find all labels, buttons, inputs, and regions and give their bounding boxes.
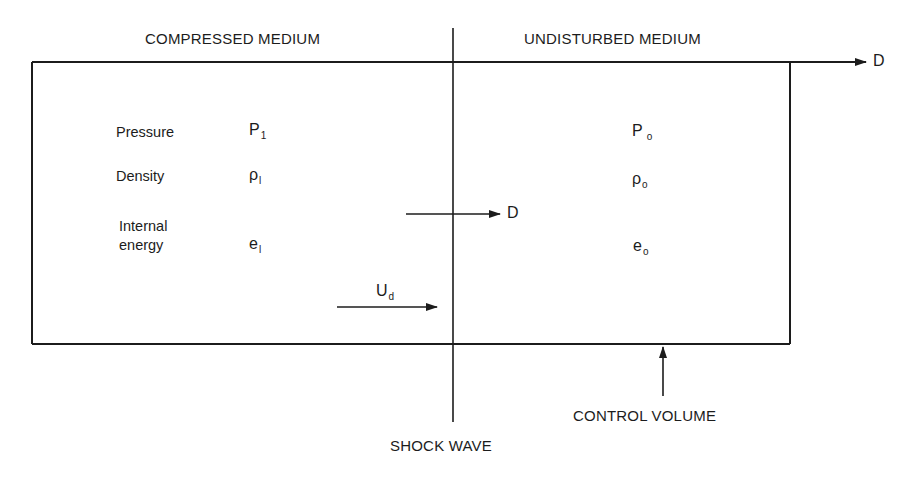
top-velocity-label: D	[873, 53, 885, 69]
internal-energy-label-line2: energy	[119, 238, 163, 253]
control-volume-box	[32, 62, 790, 344]
internal-energy-label-line1: Internal	[119, 219, 167, 234]
energy-undisturbed-symbol: eo	[633, 238, 648, 257]
density-compressed-symbol: ρl	[249, 167, 261, 186]
density-label: Density	[116, 169, 164, 184]
particle-velocity-label: Ud	[376, 283, 394, 302]
compressed-medium-title: COMPRESSED MEDIUM	[145, 31, 320, 46]
pressure-compressed-symbol: P1	[249, 122, 266, 141]
pressure-undisturbed-symbol: Po	[632, 123, 652, 142]
control-volume-label: CONTROL VOLUME	[573, 408, 716, 423]
undisturbed-medium-title: UNDISTURBED MEDIUM	[524, 31, 701, 46]
shock-velocity-label: D	[507, 205, 519, 221]
pressure-label: Pressure	[116, 125, 174, 140]
shock-wave-label: SHOCK WAVE	[390, 438, 492, 453]
density-undisturbed-symbol: ρo	[632, 171, 648, 190]
energy-compressed-symbol: el	[249, 236, 261, 255]
